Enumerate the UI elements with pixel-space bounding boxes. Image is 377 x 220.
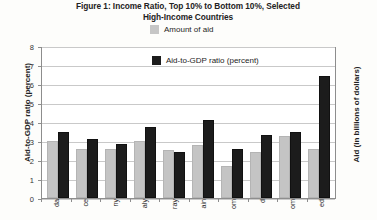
bar-amount-of-aid xyxy=(279,136,290,198)
bar-group xyxy=(43,47,72,198)
bar-group xyxy=(72,47,101,198)
x-label-slot: ray xyxy=(159,199,189,220)
x-tick-mark xyxy=(71,199,72,202)
x-label-slot: ed xyxy=(307,199,337,220)
bar-aid-to-gdp-ratio xyxy=(203,120,214,198)
legend-swatch-ratio-icon xyxy=(152,56,161,65)
y2-axis-title: Aid (in billions of dollars) xyxy=(352,40,361,190)
y-tick-label: 1 xyxy=(20,177,34,184)
x-tick-mark xyxy=(130,199,131,202)
bar-group xyxy=(305,47,334,198)
x-label-slot: aly xyxy=(130,199,160,220)
bar-amount-of-aid xyxy=(308,149,319,198)
chart-title-line2: High-Income Countries xyxy=(38,12,338,23)
bar-group xyxy=(247,47,276,198)
figure-chart: Figure 1: Income Ratio, Top 10% to Botto… xyxy=(0,0,377,220)
x-label-slot: ny xyxy=(100,199,130,220)
bar-group xyxy=(101,47,130,198)
bar-amount-of-aid xyxy=(192,145,203,198)
x-tick-mark xyxy=(189,199,190,202)
bar-aid-to-gdp-ratio xyxy=(174,152,185,198)
bar-aid-to-gdp-ratio xyxy=(116,144,127,198)
x-tick-label: ce xyxy=(82,199,89,207)
y-tick-label: 4 xyxy=(20,120,34,127)
x-tick-mark xyxy=(277,199,278,202)
y-tick-label: 8 xyxy=(20,44,34,51)
legend-swatch-aid-icon xyxy=(150,25,159,34)
x-tick-mark xyxy=(307,199,308,202)
legend-amount-of-aid: Amount of aid xyxy=(150,25,213,34)
y-tick-label: 0 xyxy=(20,196,34,203)
bar-group xyxy=(159,47,188,198)
x-tick-label: d xyxy=(259,199,266,203)
x-label-slot: ce xyxy=(71,199,101,220)
x-tick-label: ray xyxy=(170,199,177,209)
x-axis-labels: dacenyalyrayainomdomed xyxy=(41,199,336,220)
bar-group xyxy=(130,47,159,198)
bar-amount-of-aid xyxy=(250,152,261,198)
x-tick-mark xyxy=(218,199,219,202)
bar-group xyxy=(188,47,217,198)
bar-group xyxy=(218,47,247,198)
x-tick-mark xyxy=(248,199,249,202)
y-tick-label: 5 xyxy=(20,101,34,108)
x-label-slot: da xyxy=(41,199,71,220)
x-tick-label: ain xyxy=(200,199,207,209)
plot-area xyxy=(41,47,336,199)
bar-amount-of-aid xyxy=(105,149,116,198)
bar-aid-to-gdp-ratio xyxy=(319,76,330,198)
x-label-slot: om xyxy=(218,199,248,220)
chart-title-line1: Figure 1: Income Ratio, Top 10% to Botto… xyxy=(76,1,300,11)
bar-amount-of-aid xyxy=(76,149,87,198)
y-tick-label: 6 xyxy=(20,82,34,89)
bar-amount-of-aid xyxy=(134,141,145,198)
bar-aid-to-gdp-ratio xyxy=(290,132,301,199)
x-tick-label: da xyxy=(52,199,59,207)
y-tick-label: 3 xyxy=(20,139,34,146)
bar-aid-to-gdp-ratio xyxy=(232,149,243,198)
bar-aid-to-gdp-ratio xyxy=(58,132,69,199)
y-tick-label: 7 xyxy=(20,63,34,70)
x-tick-mark xyxy=(100,199,101,202)
bar-groups xyxy=(42,47,335,198)
bar-group xyxy=(276,47,305,198)
x-label-slot: om xyxy=(277,199,307,220)
legend-aid-to-gdp-ratio: Aid-to-GDP ratio (percent) xyxy=(152,56,259,65)
x-tick-label: om xyxy=(229,199,236,209)
bar-aid-to-gdp-ratio xyxy=(145,127,156,198)
bar-aid-to-gdp-ratio xyxy=(261,135,272,198)
bar-amount-of-aid xyxy=(221,166,232,198)
x-tick-label: aly xyxy=(141,199,148,208)
x-tick-mark xyxy=(159,199,160,202)
x-tick-label: om xyxy=(288,199,295,209)
x-label-slot: ain xyxy=(189,199,219,220)
bar-amount-of-aid xyxy=(47,141,58,198)
legend-label-aid: Amount of aid xyxy=(164,25,213,34)
bar-aid-to-gdp-ratio xyxy=(87,139,98,198)
x-tick-label: ed xyxy=(318,199,325,207)
chart-title: Figure 1: Income Ratio, Top 10% to Botto… xyxy=(38,1,338,23)
x-tick-label: ny xyxy=(111,199,118,207)
legend-label-ratio: Aid-to-GDP ratio (percent) xyxy=(166,56,259,65)
bar-amount-of-aid xyxy=(163,150,174,198)
x-tick-mark xyxy=(41,199,42,202)
x-label-slot: d xyxy=(248,199,278,220)
y-tick-label: 2 xyxy=(20,158,34,165)
